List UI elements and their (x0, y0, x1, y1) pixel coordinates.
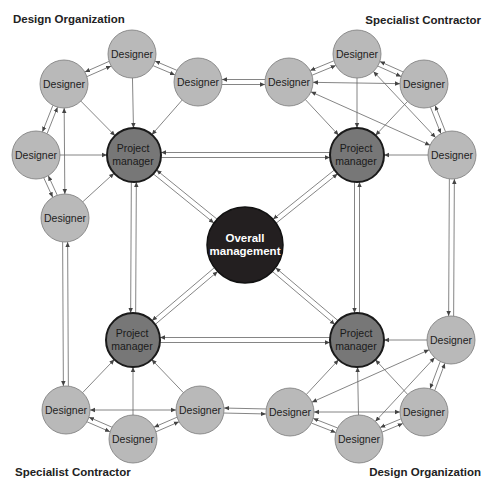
connector-arrow (68, 242, 69, 386)
connector-arrow (152, 360, 184, 393)
node-label: Project (340, 142, 373, 154)
designer-node: Designer (400, 388, 448, 436)
connector-arrow (311, 423, 335, 433)
connector-arrow (152, 268, 214, 321)
node-label: Designer (268, 76, 311, 88)
connector-arrow (83, 360, 115, 393)
connector-arrow (131, 182, 132, 313)
connector-arrow (454, 179, 455, 316)
connector-arrow (63, 242, 64, 386)
node-label: Designer (45, 404, 88, 416)
node-label: Designer (403, 78, 446, 90)
connector-arrow (310, 61, 334, 71)
node-label: Designer (336, 48, 379, 60)
connector-arrow (152, 100, 182, 135)
connector-arrow (380, 62, 403, 72)
connector-arrow (435, 363, 445, 390)
connector-arrow (153, 174, 214, 223)
connector-arrow (305, 100, 338, 136)
designer-node: Designer (266, 388, 314, 436)
connector-arrow (136, 182, 137, 313)
project-manager-node: Projectmanager (106, 313, 160, 367)
project-manager-node: Projectmanager (330, 313, 384, 367)
connector-arrow (157, 170, 218, 219)
project-manager-node: Projectmanager (330, 128, 384, 182)
connector-arrow (44, 178, 53, 197)
designer-node: Designer (174, 58, 222, 106)
designer-node: Designer (12, 131, 60, 179)
node-label: Designer (431, 149, 474, 161)
connector-arrow (380, 419, 401, 428)
connector-arrow (85, 61, 109, 72)
node-label: Designer (269, 406, 312, 418)
node-label: Designer (44, 212, 87, 224)
designer-node: Designer (428, 131, 476, 179)
connector-arrow (378, 66, 401, 76)
designer-node: Designer (40, 60, 88, 108)
node-label: Designer (15, 149, 58, 161)
connector-arrow (87, 422, 110, 432)
connector-arrow (376, 101, 408, 135)
designer-node: Designer (427, 316, 475, 364)
node-label: manager (335, 340, 377, 352)
node-label: Designer (179, 404, 222, 416)
connector-arrow (276, 174, 337, 223)
node-label: Project (340, 327, 373, 339)
connector-arrow (272, 271, 334, 324)
connector-arrow (42, 105, 52, 131)
connector-arrow (48, 176, 57, 195)
connector-arrow (154, 417, 177, 427)
connector-arrow (430, 107, 440, 133)
designer-node: Designer (42, 386, 90, 434)
node-label: Overall (226, 232, 265, 244)
connector-arrow (155, 271, 217, 324)
designer-node: Designer (109, 415, 157, 463)
connector-arrow (306, 360, 338, 395)
connector-arrow (430, 362, 440, 389)
connector-arrow (47, 107, 57, 133)
node-label: Project (116, 327, 149, 339)
node-label: Project (117, 142, 150, 154)
connector-arrow (153, 66, 175, 75)
connector-arrow (358, 367, 359, 415)
connector-arrow (224, 413, 266, 414)
connector-arrow (87, 66, 111, 77)
connector-arrow (83, 173, 114, 202)
node-label: manager (335, 155, 377, 167)
connector-arrow (273, 170, 334, 219)
connector-arrow (382, 424, 403, 433)
node-label: Designer (111, 48, 154, 60)
connector-arrow (155, 61, 177, 70)
node-label: manager (111, 340, 153, 352)
connector-arrow (156, 422, 179, 432)
designer-node: Designer (265, 58, 313, 106)
designer-node: Designer (108, 30, 156, 78)
designer-node: Designer (176, 386, 224, 434)
node-label: Designer (338, 433, 381, 445)
connector-arrow (313, 82, 400, 83)
node-label: Designer (177, 76, 220, 88)
project-manager-node: Projectmanager (107, 128, 161, 182)
connector-arrow (81, 101, 115, 136)
connector-arrow (375, 360, 407, 395)
organization-diagram: OverallmanagementProjectmanagerProjectma… (0, 0, 491, 493)
designer-node: Designer (335, 415, 383, 463)
node-label: Designer (112, 433, 155, 445)
designer-node: Designer (333, 30, 381, 78)
connector-arrow (224, 408, 266, 409)
connector-arrow (449, 179, 450, 316)
overall-management-node: Overallmanagement (207, 207, 283, 283)
node-label: management (210, 245, 281, 257)
node-label: Designer (43, 78, 86, 90)
connector-arrow (276, 268, 338, 321)
nodes: OverallmanagementProjectmanagerProjectma… (12, 30, 476, 463)
connector-arrow (312, 65, 336, 75)
connector-arrow (132, 78, 133, 128)
node-label: manager (112, 155, 154, 167)
connector-arrow (89, 417, 112, 427)
node-label: Designer (403, 406, 446, 418)
designer-node: Designer (41, 194, 89, 242)
node-label: Designer (430, 334, 473, 346)
connector-arrow (64, 108, 65, 194)
connector-arrow (313, 418, 337, 428)
